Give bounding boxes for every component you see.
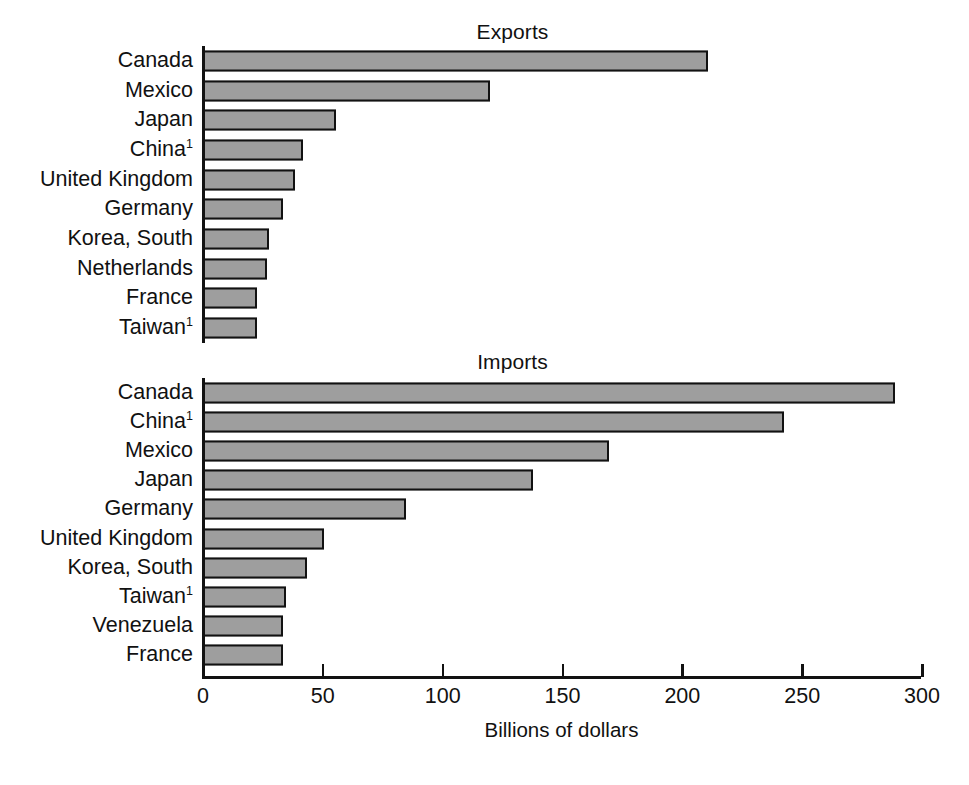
bar-category-label: Korea, South bbox=[67, 557, 202, 579]
x-axis-tick-label: 250 bbox=[784, 684, 820, 709]
footnote-marker: 1 bbox=[186, 137, 193, 151]
bar-category-label: Japan bbox=[134, 109, 202, 131]
x-axis-tick bbox=[921, 664, 924, 677]
bar-category-label: Mexico bbox=[125, 80, 202, 102]
bar-category-label: Korea, South bbox=[67, 228, 202, 250]
x-axis-tick-label: 300 bbox=[904, 684, 940, 709]
bar-category-label: China1 bbox=[130, 139, 202, 161]
x-axis-tick bbox=[801, 664, 804, 677]
x-axis-tick-label: 100 bbox=[425, 684, 461, 709]
bar-category-label: Taiwan1 bbox=[119, 317, 202, 339]
bar-category-label: Canada bbox=[118, 382, 202, 404]
bar-chart-figure: Exports CanadaMexicoJapanChina1United Ki… bbox=[0, 0, 969, 785]
x-axis-tick bbox=[322, 664, 325, 677]
exports-panel-title: Exports bbox=[0, 20, 969, 44]
bar-category-label: France bbox=[126, 645, 202, 667]
x-axis: 050100150200250300 bbox=[202, 46, 921, 678]
bar-category-label: Japan bbox=[134, 469, 202, 491]
bar-category-label: China1 bbox=[130, 411, 202, 433]
bar-category-label: Netherlands bbox=[77, 258, 202, 280]
x-axis-tick-label: 50 bbox=[311, 684, 335, 709]
bar-category-label: Germany bbox=[105, 499, 202, 521]
imports-axis-vertical-line bbox=[202, 378, 205, 678]
bar-category-label: Taiwan1 bbox=[119, 586, 202, 608]
x-axis-tick-label: 200 bbox=[664, 684, 700, 709]
x-axis-tick-label: 150 bbox=[545, 684, 581, 709]
x-axis-title: Billions of dollars bbox=[202, 718, 921, 742]
exports-axis-vertical-line bbox=[202, 46, 205, 343]
footnote-marker: 1 bbox=[186, 584, 193, 598]
x-axis-tick bbox=[442, 664, 445, 677]
bar-category-label: United Kingdom bbox=[40, 528, 202, 550]
bar-category-label: United Kingdom bbox=[40, 169, 202, 191]
bar-category-label: Mexico bbox=[125, 440, 202, 462]
bar-category-label: Canada bbox=[118, 50, 202, 72]
footnote-marker: 1 bbox=[186, 315, 193, 329]
x-axis-tick bbox=[202, 664, 205, 677]
bar-category-label: Germany bbox=[105, 199, 202, 221]
bar-category-label: Venezuela bbox=[93, 615, 202, 637]
x-axis-tick bbox=[562, 664, 565, 677]
x-axis-tick-label: 0 bbox=[197, 684, 209, 709]
bar-category-label: France bbox=[126, 288, 202, 310]
footnote-marker: 1 bbox=[186, 409, 193, 423]
x-axis-tick bbox=[681, 664, 684, 677]
